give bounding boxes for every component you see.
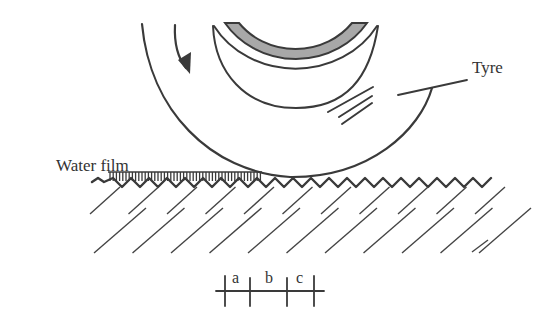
road-surface-profile (92, 178, 491, 187)
road-hatch-line (171, 208, 223, 253)
road-hatch-line (94, 208, 146, 253)
zone-b-label: b (265, 269, 273, 286)
road-hatch-line (287, 208, 339, 253)
tyre-leader-line (398, 80, 467, 95)
tyre-outer-arc (142, 24, 432, 177)
road-hatching (90, 187, 531, 253)
road-hatch-line (402, 208, 454, 253)
road-hatch-line (441, 208, 493, 253)
tyre-aquaplaning-diagram: Tyre Water film a b c (0, 0, 538, 327)
road-hatch-line (90, 187, 120, 214)
rotation-arrow-icon (175, 25, 191, 74)
road-hatch-line (210, 208, 262, 253)
tyre-label: Tyre (472, 58, 503, 77)
road-hatch-line (479, 208, 531, 253)
rim-band (225, 23, 367, 59)
road-hatch-line (472, 240, 488, 252)
road-hatch-line (325, 208, 377, 253)
road-hatch-line (133, 208, 185, 253)
road-hatch-line (248, 208, 300, 253)
zone-a-label: a (232, 269, 239, 286)
zone-scale: a b c (216, 269, 324, 306)
road-hatch-line (364, 208, 416, 253)
zone-c-label: c (296, 269, 303, 286)
